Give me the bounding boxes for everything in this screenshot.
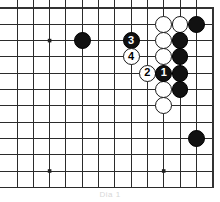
move-number-label: 1 [161, 67, 167, 78]
stone-black[interactable] [172, 65, 189, 82]
stone-white[interactable] [172, 16, 189, 33]
stone-black[interactable] [188, 16, 205, 33]
go-board[interactable]: 3421 [0, 0, 220, 188]
move-stone-1[interactable]: 1 [155, 65, 172, 82]
stone-black[interactable] [74, 32, 91, 49]
move-stone-3[interactable]: 3 [123, 32, 140, 49]
star-point [48, 39, 52, 43]
move-stone-2[interactable]: 2 [139, 65, 156, 82]
go-diagram-figure: 3421 Dia 1 [0, 0, 220, 202]
stone-white[interactable] [155, 16, 172, 33]
figure-caption: Dia 1 [0, 188, 220, 202]
star-point [162, 169, 166, 173]
move-number-label: 3 [128, 35, 134, 46]
stone-black[interactable] [188, 130, 205, 147]
move-number-label: 4 [128, 51, 134, 62]
star-point [48, 169, 52, 173]
move-stone-4[interactable]: 4 [123, 48, 140, 65]
stone-white[interactable] [155, 81, 172, 98]
move-number-label: 2 [144, 67, 150, 78]
